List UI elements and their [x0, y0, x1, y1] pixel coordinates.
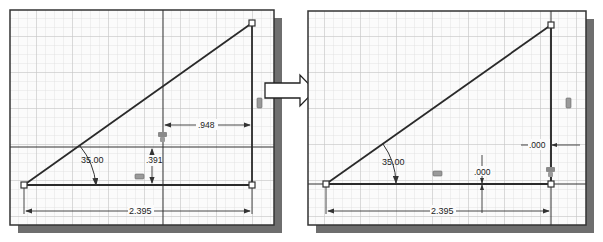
vertex-point-bottom-right[interactable] — [249, 182, 255, 188]
sketch-grid — [10, 10, 274, 225]
vertex-point-bottom-right[interactable] — [548, 181, 554, 187]
base-length-dimension-value[interactable]: 2.395 — [129, 206, 152, 216]
base-length-dimension-value[interactable]: 2.395 — [431, 206, 454, 216]
vertex-point-bottom-left[interactable] — [21, 182, 27, 188]
angle-dimension-value[interactable]: 35.00 — [81, 155, 104, 165]
after-panel: 35.00 .000 .000 2.395 — [308, 11, 594, 233]
sketch-comparison: 35.00 .948 .391 2.395 — [0, 0, 603, 242]
sketch-grid — [308, 11, 586, 225]
horizontal-constraint-icon[interactable] — [135, 174, 144, 179]
angle-dimension-value[interactable]: 35.00 — [382, 157, 405, 167]
vertex-point-top[interactable] — [548, 22, 554, 28]
vertical-offset-dimension-value[interactable]: .000 — [474, 167, 491, 177]
vertex-point-bottom-left[interactable] — [323, 181, 329, 187]
horizontal-offset-dimension-value[interactable]: .948 — [198, 120, 215, 130]
horizontal-constraint-icon[interactable] — [433, 171, 442, 176]
before-panel: 35.00 .948 .391 2.395 — [10, 10, 282, 233]
horizontal-offset-dimension-value[interactable]: .000 — [529, 140, 546, 150]
vertical-constraint-icon[interactable] — [257, 98, 262, 108]
vertical-constraint-icon[interactable] — [566, 98, 571, 108]
vertex-point-top[interactable] — [249, 20, 255, 26]
vertical-offset-dimension-value[interactable]: .391 — [146, 155, 163, 165]
